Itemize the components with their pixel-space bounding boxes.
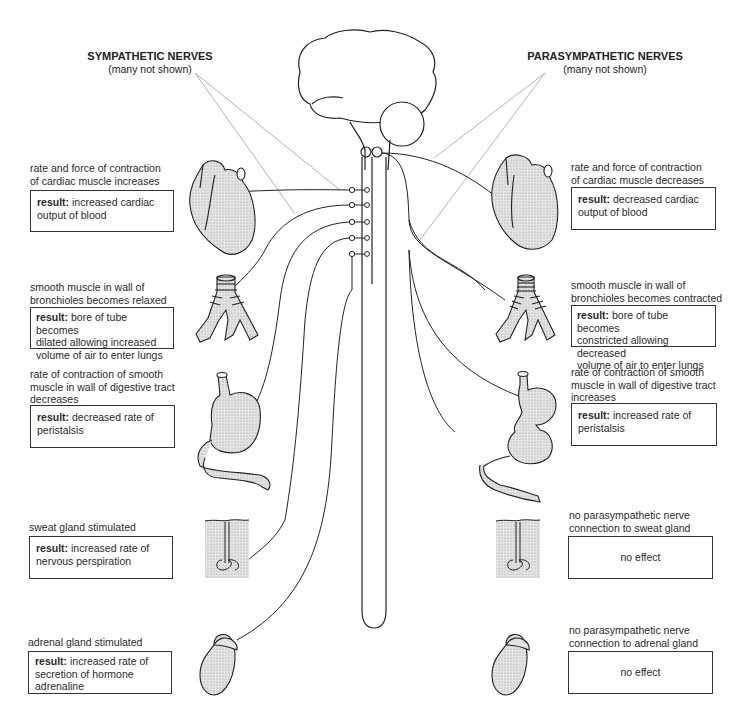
sympathetic-adrenal-result: result: increased rate of secretion of h… xyxy=(28,651,172,694)
result-label: result: xyxy=(36,311,68,323)
result-label: result: xyxy=(36,542,68,554)
result-text: peristalsis xyxy=(37,424,84,436)
parasympathetic-title: PARASYMPATHETIC NERVES xyxy=(515,50,695,63)
parasympathetic-adrenal-caption: no parasympathetic nerve connection to a… xyxy=(569,624,698,649)
result-label: result: xyxy=(37,411,69,423)
result-text: no effect xyxy=(620,666,660,679)
caption-line: smooth muscle in wall of xyxy=(30,281,167,294)
parasympathetic-heart-result: result: decreased cardiac output of bloo… xyxy=(571,187,716,230)
result-text: adrenaline xyxy=(35,680,84,692)
sympathetic-heart-caption: rate and force of contraction of cardiac… xyxy=(30,162,161,187)
caption-line: of cardiac muscle increases xyxy=(30,175,161,188)
sweat-gland-icon-parasympathetic xyxy=(496,520,540,578)
sympathetic-heading: SYMPATHETIC NERVES (many not shown) xyxy=(80,50,220,76)
result-text: no effect xyxy=(620,551,660,564)
sympathetic-digestive-result: result: decreased rate of peristalsis xyxy=(30,405,175,448)
result-label: result: xyxy=(37,196,69,208)
caption-line: rate and force of contraction xyxy=(571,161,704,174)
result-label: result: xyxy=(578,193,610,205)
sympathetic-sweat-caption: sweat gland stimulated xyxy=(29,521,136,534)
caption-line: rate of contraction of smooth xyxy=(571,366,716,379)
heart-icon-parasympathetic xyxy=(492,155,558,249)
result-label: result: xyxy=(578,409,610,421)
parasympathetic-heading: PARASYMPATHETIC NERVES (many not shown) xyxy=(515,50,695,76)
spinal-cord-icon xyxy=(361,147,386,628)
result-label: result: xyxy=(35,655,67,667)
result-text: secretion of hormone xyxy=(35,668,134,680)
sympathetic-ganglia xyxy=(349,187,369,256)
bronchioles-icon-sympathetic xyxy=(196,275,258,342)
caption-line: smooth muscle in wall of xyxy=(571,279,722,292)
result-text: increased rate of xyxy=(613,409,691,421)
parasympathetic-subtitle: (many not shown) xyxy=(515,63,695,76)
parasympathetic-digestive-caption: rate of contraction of smooth muscle in … xyxy=(571,366,716,404)
sympathetic-bronchioles-caption: smooth muscle in wall of bronchioles bec… xyxy=(30,281,167,306)
result-text: peristalsis xyxy=(578,422,625,434)
result-text: dilated allowing increased xyxy=(36,336,156,348)
adrenal-gland-icon-sympathetic xyxy=(200,635,237,695)
sympathetic-bronchioles-result: result: bore of tube becomes dilated all… xyxy=(30,307,174,349)
parasympathetic-bronchioles-caption: smooth muscle in wall of bronchioles bec… xyxy=(571,279,722,304)
brain-icon xyxy=(298,30,436,170)
result-text: increased rate of xyxy=(71,542,149,554)
caption-line: of cardiac muscle decreases xyxy=(571,174,704,187)
caption-line: connection to sweat gland xyxy=(569,522,690,535)
bronchioles-icon-parasympathetic xyxy=(496,275,555,342)
result-text: increased rate of xyxy=(70,655,148,667)
parasympathetic-digestive-result: result: increased rate of peristalsis xyxy=(571,403,717,446)
caption-line: sweat gland stimulated xyxy=(29,521,136,534)
caption-line: no parasympathetic nerve xyxy=(569,509,690,522)
result-text: increased cardiac xyxy=(72,196,154,208)
sweat-gland-icon-sympathetic xyxy=(205,520,249,578)
stomach-icon-sympathetic xyxy=(198,373,270,491)
caption-line: decreases xyxy=(30,393,175,406)
caption-line: muscle in wall of digestive tract xyxy=(30,381,175,394)
result-text: nervous perspiration xyxy=(36,555,131,567)
caption-line: adrenal gland stimulated xyxy=(28,636,142,649)
parasympathetic-sweat-caption: no parasympathetic nerve connection to s… xyxy=(569,509,690,534)
parasympathetic-sweat-result: no effect xyxy=(568,536,713,579)
caption-line: rate of contraction of smooth xyxy=(30,368,175,381)
caption-line: connection to adrenal gland xyxy=(569,637,698,650)
heart-icon-sympathetic xyxy=(190,161,255,254)
caption-line: muscle in wall of digestive tract xyxy=(571,379,716,392)
caption-line: rate and force of contraction xyxy=(30,162,161,175)
stomach-icon-parasympathetic xyxy=(480,372,556,503)
sympathetic-digestive-caption: rate of contraction of smooth muscle in … xyxy=(30,368,175,406)
result-text: output of blood xyxy=(578,206,647,218)
parasympathetic-bronchioles-result: result: bore of tube becomes constricted… xyxy=(571,305,716,347)
result-text: decreased cardiac xyxy=(613,193,699,205)
sympathetic-subtitle: (many not shown) xyxy=(80,63,220,76)
caption-line: bronchioles becomes relaxed xyxy=(30,294,167,307)
sympathetic-adrenal-caption: adrenal gland stimulated xyxy=(28,636,142,649)
caption-line: increases xyxy=(571,391,716,404)
result-text: decreased rate of xyxy=(72,411,154,423)
caption-line: bronchioles becomes contracted xyxy=(571,292,722,305)
result-label: result: xyxy=(577,309,609,321)
autonomic-nervous-system-diagram: SYMPATHETIC NERVES (many not shown) PARA… xyxy=(0,0,735,708)
adrenal-gland-icon-parasympathetic xyxy=(492,635,529,695)
sympathetic-heart-result: result: increased cardiac output of bloo… xyxy=(30,190,174,232)
sympathetic-title: SYMPATHETIC NERVES xyxy=(80,50,220,63)
parasympathetic-adrenal-result: no effect xyxy=(568,651,713,694)
result-text: output of blood xyxy=(37,209,106,221)
caption-line: no parasympathetic nerve xyxy=(569,624,698,637)
sympathetic-sweat-result: result: increased rate of nervous perspi… xyxy=(29,536,173,579)
result-text: volume of air to enter lungs xyxy=(36,349,163,361)
parasympathetic-heart-caption: rate and force of contraction of cardiac… xyxy=(571,161,704,186)
